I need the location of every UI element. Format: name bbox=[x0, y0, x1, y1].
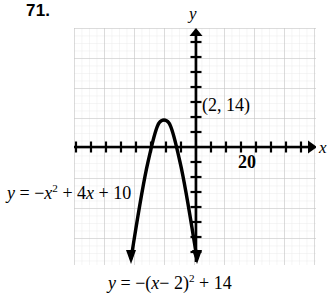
y-axis-label: y bbox=[189, 5, 197, 22]
equation-standard-tail: + 10 bbox=[94, 183, 131, 203]
equation-vertex-form: y = −(x− 2)2 + 14 bbox=[108, 274, 232, 292]
equation-standard-form: y = −x2 + 4x + 10 bbox=[7, 184, 131, 202]
graph-svg bbox=[74, 28, 316, 265]
equation-standard-lhs: y bbox=[7, 183, 15, 203]
equation-vertex-mid: − 2) bbox=[159, 273, 189, 293]
equation-vertex-lhs: y bbox=[108, 273, 116, 293]
vertex-point-label: (2, 14) bbox=[202, 96, 250, 114]
x-axis-label: x bbox=[319, 139, 327, 156]
equation-vertex-tail: + 14 bbox=[195, 273, 232, 293]
coordinate-plane bbox=[74, 28, 316, 265]
equation-standard-mid: + 4 bbox=[58, 183, 86, 203]
equation-standard-x2: x bbox=[86, 183, 94, 203]
x-tick-label-20: 20 bbox=[238, 153, 256, 171]
equation-vertex-eq: = −( bbox=[116, 273, 151, 293]
figure-canvas: 71. bbox=[0, 0, 335, 302]
equation-standard-eq: = − bbox=[15, 183, 44, 203]
problem-number: 71. bbox=[26, 2, 50, 19]
